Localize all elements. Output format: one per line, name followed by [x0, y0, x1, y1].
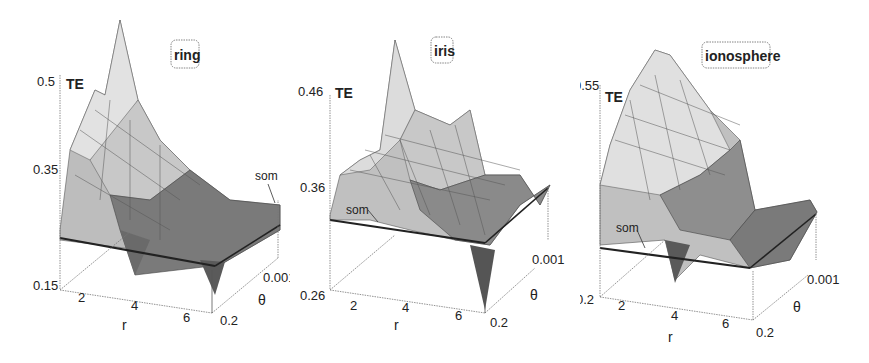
- som-annotation: som: [346, 203, 369, 217]
- surface-plot-ionosphere: 0.55 TE 0.2 2 4 6 r 0.2 0.001 θ som iono…: [580, 0, 869, 363]
- som-annotation: som: [255, 169, 278, 183]
- chart-title-ring: ring: [174, 47, 200, 63]
- z-tick-bottom: 0.26: [300, 288, 325, 303]
- chart-title-iris: iris: [434, 43, 455, 59]
- x-tick-6: 6: [455, 308, 462, 323]
- y-tick-0001: 0.001: [532, 252, 565, 267]
- y-tick-0001: 0.001: [807, 272, 840, 287]
- y-tick-02: 0.2: [220, 313, 238, 328]
- y-axis-label: θ: [530, 287, 538, 303]
- z-axis-label: TE: [66, 76, 84, 92]
- x-axis-label: r: [668, 329, 673, 345]
- z-tick-top: 0.5: [37, 74, 55, 89]
- chart-panel-ionosphere: 0.55 TE 0.2 2 4 6 r 0.2 0.001 θ som iono…: [580, 0, 869, 363]
- x-tick-4: 4: [671, 308, 678, 323]
- z-axis-label: TE: [335, 85, 353, 101]
- y-tick-0001: 0.001: [263, 270, 290, 285]
- y-tick-02: 0.2: [756, 325, 774, 340]
- z-tick-mid: 0.36: [300, 180, 325, 195]
- y-axis-label: θ: [258, 292, 266, 308]
- y-tick-02: 0.2: [490, 315, 508, 330]
- z-axis-label: TE: [605, 89, 623, 105]
- z-tick-top: 0.55: [580, 78, 599, 93]
- x-tick-2: 2: [618, 298, 625, 313]
- x-axis-label: r: [394, 317, 399, 333]
- z-tick-bottom: 0.2: [580, 292, 594, 307]
- surface-plot-iris: 0.46 TE 0.36 0.26 2 4 6 r 0.2 0.001 θ so…: [290, 0, 580, 363]
- chart-title-ionosphere: ionosphere: [705, 48, 781, 64]
- chart-panel-ring: 0.5 TE 0.35 0.15 2 4 6 r 0.2 0.001 θ som…: [0, 0, 290, 363]
- x-tick-6: 6: [183, 310, 190, 325]
- x-tick-4: 4: [402, 300, 409, 315]
- som-annotation: som: [616, 221, 639, 235]
- z-tick-bottom: 0.15: [33, 278, 58, 293]
- z-tick-mid: 0.35: [33, 162, 58, 177]
- x-tick-2: 2: [350, 298, 357, 313]
- x-axis-label: r: [122, 317, 127, 333]
- x-tick-6: 6: [722, 316, 729, 331]
- x-tick-2: 2: [78, 290, 85, 305]
- chart-panel-iris: 0.46 TE 0.36 0.26 2 4 6 r 0.2 0.001 θ so…: [290, 0, 580, 363]
- y-axis-label: θ: [793, 299, 801, 315]
- x-tick-4: 4: [131, 298, 138, 313]
- z-tick-top: 0.46: [298, 84, 323, 99]
- surface-plot-ring: 0.5 TE 0.35 0.15 2 4 6 r 0.2 0.001 θ som…: [0, 0, 290, 363]
